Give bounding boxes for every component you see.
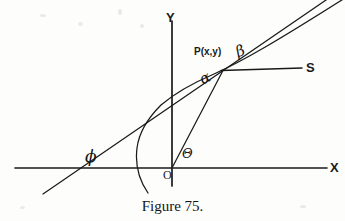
- figure-75-diagram: Y X S P(x,y) O Θ α β ϕ Figure 75.: [0, 0, 345, 221]
- radius-vector-line: [173, 71, 224, 168]
- angle-theta-label: Θ: [182, 147, 193, 160]
- x-axis-label: X: [330, 161, 339, 174]
- ray-s-label: S: [306, 61, 315, 74]
- origin-label: O: [163, 169, 172, 181]
- curve-path: [136, 0, 345, 193]
- angle-phi-label: ϕ: [85, 148, 97, 165]
- ray-to-s-line: [221, 68, 302, 71]
- figure-caption: Figure 75.: [0, 198, 345, 215]
- figure-linework: [0, 0, 345, 221]
- y-axis-label: Y: [166, 11, 175, 24]
- point-p-label: P(x,y): [194, 47, 221, 57]
